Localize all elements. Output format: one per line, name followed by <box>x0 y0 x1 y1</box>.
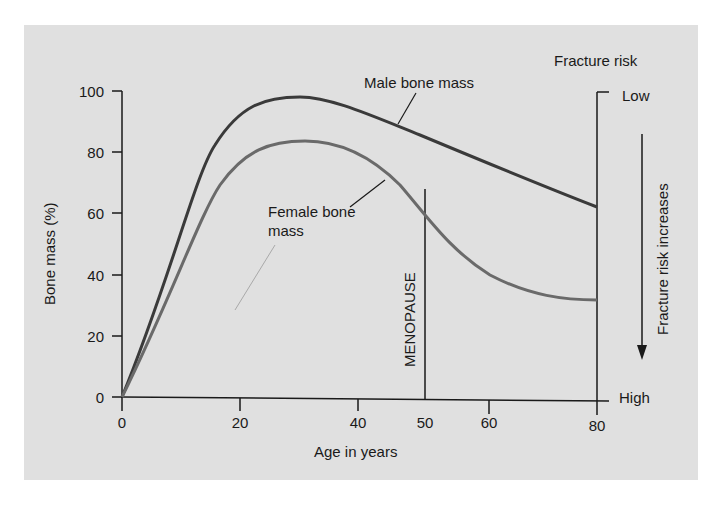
x-tick-label: 20 <box>225 415 255 430</box>
x-axis <box>122 397 609 401</box>
menopause-label: MENOPAUSE <box>402 272 417 367</box>
female-bone-mass-label: Female bone <box>268 204 356 219</box>
x-tick-label: 80 <box>582 418 612 433</box>
x-tick-label: 40 <box>343 415 373 430</box>
y-tick-label: 60 <box>64 206 104 221</box>
y-tick-label: 0 <box>64 390 104 405</box>
y-tick-label: 20 <box>64 329 104 344</box>
y-tick-label: 100 <box>64 84 104 99</box>
male-bone-mass-curve <box>122 97 597 397</box>
fracture-risk-increases-label: Fracture risk increases <box>655 183 670 335</box>
arrow-down-icon <box>637 345 647 360</box>
x-tick-label: 60 <box>474 415 504 430</box>
fracture-risk-title: Fracture risk <box>554 53 637 68</box>
y-tick-label: 40 <box>64 268 104 283</box>
male-bone-mass-label: Male bone mass <box>364 75 474 90</box>
y-axis-title: Bone mass (%) <box>42 202 57 305</box>
y-tick-label: 80 <box>64 145 104 160</box>
fracture-risk-high-label: High <box>619 390 650 405</box>
fracture-risk-low-label: Low <box>622 88 650 103</box>
female-bone-mass-label: mass <box>268 223 304 238</box>
x-tick-label: 0 <box>107 415 137 430</box>
x-axis-title: Age in years <box>314 444 397 459</box>
x-tick-label: 50 <box>410 415 440 430</box>
